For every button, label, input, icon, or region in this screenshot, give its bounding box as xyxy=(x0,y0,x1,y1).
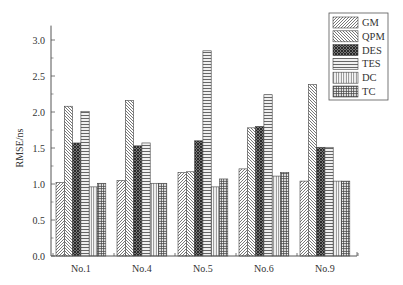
bar-dc-no1 xyxy=(89,187,97,256)
bar-dc-no4 xyxy=(150,183,158,256)
legend-item-dc: DC xyxy=(333,72,377,83)
bar-chart: No.1No.4No.5No.6No.90.00.51.01.52.02.53.… xyxy=(0,0,403,285)
bar-dc-no9 xyxy=(333,181,341,256)
x-tick-label: No.5 xyxy=(193,263,213,274)
bar-des-no1 xyxy=(73,143,81,256)
legend-swatch-qpm xyxy=(333,31,358,42)
bar-qpm-no5 xyxy=(186,172,194,256)
bar-tes-no6 xyxy=(264,95,272,256)
legend-item-des: DES xyxy=(333,45,382,56)
legend-label: TES xyxy=(362,58,381,69)
bar-tc-no9 xyxy=(342,181,350,256)
legend-label: DES xyxy=(362,45,382,56)
legend-swatch-dc xyxy=(333,72,358,83)
legend-item-tc: TC xyxy=(333,86,375,97)
bar-des-no5 xyxy=(195,141,203,256)
y-axis-title: RMSE/ns xyxy=(14,128,25,167)
y-tick-label: 1.5 xyxy=(33,143,46,154)
bar-qpm-no4 xyxy=(125,100,133,256)
bar-tes-no5 xyxy=(203,51,211,256)
bar-des-no6 xyxy=(256,126,264,256)
bar-gm-no4 xyxy=(117,180,125,256)
x-tick-label: No.9 xyxy=(315,263,335,274)
bar-group-no6 xyxy=(239,95,289,256)
bar-tes-no4 xyxy=(142,143,150,256)
legend: GMQPMDESTESDCTC xyxy=(329,13,388,100)
bar-tc-no5 xyxy=(220,179,228,256)
bar-dc-no5 xyxy=(211,187,219,256)
bar-group-no4 xyxy=(117,100,167,256)
bar-group-no5 xyxy=(178,51,228,256)
legend-swatch-des xyxy=(333,45,358,56)
bar-des-no4 xyxy=(134,146,142,256)
legend-swatch-tes xyxy=(333,58,358,69)
bar-gm-no6 xyxy=(239,169,247,256)
bar-qpm-no9 xyxy=(308,85,316,256)
x-tick-label: No.4 xyxy=(132,263,152,274)
legend-label: DC xyxy=(362,72,377,83)
bar-tc-no1 xyxy=(98,183,106,256)
bar-tc-no6 xyxy=(281,172,289,256)
bar-qpm-no6 xyxy=(247,128,255,256)
bar-gm-no5 xyxy=(178,172,186,256)
bars-layer xyxy=(56,51,350,256)
bar-tc-no4 xyxy=(159,183,167,256)
bar-tes-no9 xyxy=(325,147,333,256)
legend-swatch-tc xyxy=(333,86,358,97)
x-tick-label: No.6 xyxy=(254,263,274,274)
legend-label: GM xyxy=(362,17,380,28)
bar-des-no9 xyxy=(317,147,325,256)
y-tick-label: 2.5 xyxy=(33,71,46,82)
y-tick-label: 0.5 xyxy=(33,215,46,226)
legend-label: TC xyxy=(362,86,375,97)
legend-item-tes: TES xyxy=(333,58,381,69)
bar-group-no1 xyxy=(56,106,106,256)
bar-gm-no9 xyxy=(300,181,308,256)
y-tick-label: 0.0 xyxy=(33,251,46,262)
y-tick-label: 1.0 xyxy=(33,179,46,190)
bar-qpm-no1 xyxy=(64,106,72,256)
y-tick-label: 2.0 xyxy=(33,107,46,118)
bar-dc-no6 xyxy=(272,176,280,256)
x-tick-label: No.1 xyxy=(71,263,91,274)
bar-group-no9 xyxy=(300,85,350,256)
bar-gm-no1 xyxy=(56,183,64,256)
y-tick-label: 3.0 xyxy=(33,35,46,46)
legend-item-gm: GM xyxy=(333,17,380,28)
legend-label: QPM xyxy=(362,31,385,42)
bar-tes-no1 xyxy=(81,111,89,256)
legend-swatch-gm xyxy=(333,17,358,28)
